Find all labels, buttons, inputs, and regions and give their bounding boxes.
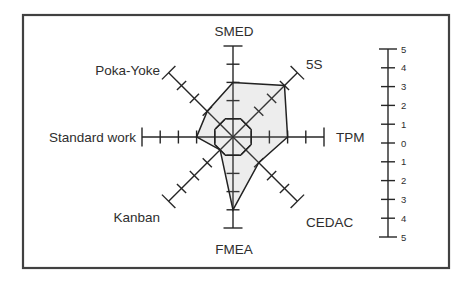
scale-label-5: 0: [401, 138, 406, 149]
axis-label-smed: SMED: [214, 24, 253, 39]
scale-label-9: 4: [401, 213, 406, 224]
scale-bar: 54321012345: [379, 44, 406, 243]
radar-chart-canvas: SMED5STPMCEDACFMEAKanbanStandard workPok…: [0, 0, 466, 283]
scale-label-8: 3: [401, 194, 406, 205]
scale-label-0: 5: [401, 44, 406, 55]
scale-label-7: 2: [401, 175, 406, 186]
axis-label-cedac: CEDAC: [306, 215, 354, 230]
axis-label-fmea: FMEA: [215, 242, 253, 257]
scale-label-4: 1: [401, 119, 406, 130]
axis-label-poka-yoke: Poka-Yoke: [95, 63, 160, 78]
scale-label-3: 2: [401, 100, 406, 111]
scale-label-1: 4: [401, 62, 406, 73]
axis-label-kanban: Kanban: [113, 210, 160, 225]
axis-label-standard-work: Standard work: [49, 130, 136, 145]
scale-label-2: 3: [401, 81, 406, 92]
data-polygon-assessment: [197, 82, 288, 209]
radar-chart-figure: SMED5STPMCEDACFMEAKanbanStandard workPok…: [0, 0, 466, 283]
axis-label-tpm: TPM: [336, 130, 365, 145]
scale-label-6: 1: [401, 156, 406, 167]
axis-label-5s: 5S: [306, 57, 323, 72]
scale-label-10: 5: [401, 232, 406, 243]
